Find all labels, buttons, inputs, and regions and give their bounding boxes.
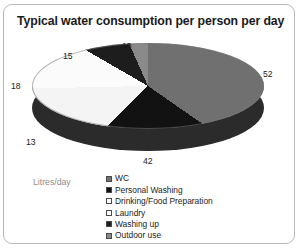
legend-label: Outdoor use: [115, 231, 161, 239]
legend-swatch-icon: [106, 210, 112, 216]
legend-label: Laundry: [115, 209, 145, 217]
pie-start-divider: [148, 43, 149, 86]
unit-label: Litres/day: [33, 177, 71, 187]
legend-swatch-icon: [106, 176, 112, 182]
chart-legend: WC Personal Washing Drinking/Food Prepar…: [106, 173, 213, 241]
legend-swatch-icon: [106, 233, 112, 239]
legend-label: WC: [115, 174, 129, 182]
legend-item-washing-up[interactable]: Washing up: [106, 219, 213, 230]
legend-swatch-icon: [106, 187, 112, 193]
legend-label: Washing up: [115, 220, 159, 228]
legend-label: Personal Washing: [115, 186, 183, 194]
chart-title: Typical water consumption per person per…: [17, 14, 284, 28]
legend-item-laundry[interactable]: Laundry: [106, 207, 213, 218]
chart-card: Typical water consumption per person per…: [3, 4, 295, 244]
legend-label: Drinking/Food Preparation: [115, 197, 213, 205]
data-label-laundry: 13: [26, 137, 36, 147]
data-label-wc: 52: [263, 69, 273, 79]
legend-item-drinking-food-preparation[interactable]: Drinking/Food Preparation: [106, 196, 213, 207]
legend-swatch-icon: [106, 221, 112, 227]
legend-item-wc[interactable]: WC: [106, 173, 213, 184]
data-label-washing-up: 15: [63, 51, 73, 61]
data-label-outdoor-use: 10: [122, 41, 132, 51]
legend-item-personal-washing[interactable]: Personal Washing: [106, 184, 213, 195]
pie-chart: 52 42 18 13 15 10: [4, 33, 295, 173]
legend-swatch-icon: [106, 198, 112, 204]
legend-item-outdoor-use[interactable]: Outdoor use: [106, 230, 213, 241]
data-label-personal-washing: 42: [143, 156, 153, 166]
data-label-drinking-food: 18: [11, 81, 21, 91]
